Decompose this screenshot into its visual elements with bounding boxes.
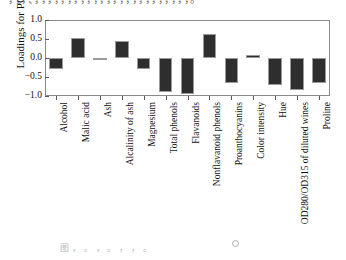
x-category-label-text: Hue — [278, 102, 288, 118]
x-tick-mark — [231, 96, 232, 100]
x-category-label-text: Malic acid — [81, 102, 91, 142]
x-category-label: Ash — [100, 102, 110, 117]
x-category-label: Magnesium — [144, 102, 154, 147]
bar — [246, 55, 260, 58]
x-tick-mark — [100, 96, 101, 100]
x-category-label-text: Nonflavanoid phenols — [212, 102, 222, 186]
bar — [159, 58, 173, 92]
bar — [225, 58, 239, 83]
x-category-label-text: Alcalinity of ash — [125, 102, 135, 165]
x-category-label: OD280/OD315 of diluted wines — [297, 102, 307, 224]
x-category-label: Flavanoids — [188, 102, 198, 144]
bar — [49, 58, 63, 69]
bar — [115, 41, 129, 58]
x-category-label-text: Proanthocyanins — [234, 102, 244, 165]
x-category-label: Proline — [319, 102, 329, 129]
bar — [137, 58, 151, 69]
bar — [181, 58, 195, 94]
x-category-label: Nonflavanoid phenols — [209, 102, 219, 186]
y-tick-label: 0.0 — [14, 53, 42, 63]
x-category-label-text: Alcohol — [59, 102, 69, 133]
x-tick-mark — [275, 96, 276, 100]
y-tick-label: −1.0 — [14, 91, 42, 101]
y-tick-label: 1.0 — [14, 15, 42, 25]
bar — [312, 58, 326, 83]
x-category-label-text: Ash — [103, 102, 113, 117]
figure-caption: 图 ， 。 ， 。 ， ， 。 — [60, 243, 346, 259]
loadings-bar-chart-figure: Loadings for PC 1 1.00.50.0−0.5−1.0 Alco… — [0, 0, 346, 260]
x-category-label-text: Magnesium — [147, 102, 157, 147]
bar — [71, 38, 85, 58]
x-tick-mark — [209, 96, 210, 100]
x-category-label: Total phenols — [166, 102, 176, 153]
bar — [268, 58, 282, 85]
x-category-label: Alcohol — [56, 102, 66, 133]
x-category-label: Malic acid — [78, 102, 88, 142]
x-category-label-text: Color intensity — [256, 102, 266, 159]
bar — [93, 58, 107, 60]
x-tick-mark — [144, 96, 145, 100]
x-category-label-text: Proline — [322, 102, 332, 129]
x-category-label: Color intensity — [253, 102, 263, 159]
x-category-label: Hue — [275, 102, 285, 118]
bar — [203, 34, 217, 58]
y-tick-label: −0.5 — [14, 72, 42, 82]
y-tick-mark — [45, 96, 49, 97]
x-tick-mark — [319, 96, 320, 100]
x-category-label: Alcalinity of ash — [122, 102, 132, 165]
x-category-label-text: OD280/OD315 of diluted wines — [300, 102, 310, 224]
y-tick-label: 0.5 — [14, 34, 42, 44]
bar — [290, 58, 304, 90]
x-tick-mark — [188, 96, 189, 100]
y-axis-tick-labels: 1.00.50.0−0.5−1.0 — [8, 0, 42, 260]
y-tick-mark — [45, 39, 49, 40]
x-tick-mark — [166, 96, 167, 100]
x-category-label-text: Flavanoids — [191, 102, 201, 144]
x-tick-mark — [122, 96, 123, 100]
x-tick-mark — [78, 96, 79, 100]
x-tick-mark — [253, 96, 254, 100]
x-tick-mark — [56, 96, 57, 100]
y-tick-mark — [45, 20, 49, 21]
x-category-label: Proanthocyanins — [231, 102, 241, 165]
x-category-label-text: Total phenols — [169, 102, 179, 153]
x-tick-mark — [297, 96, 298, 100]
y-tick-mark — [45, 77, 49, 78]
